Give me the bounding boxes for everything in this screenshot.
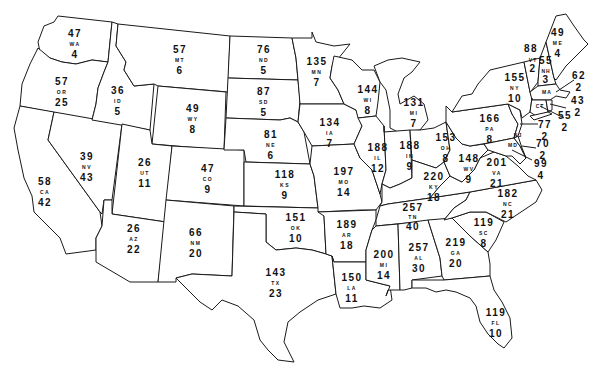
label-il: 188IL12 [367, 143, 388, 174]
label-fl: 119FL10 [486, 308, 507, 339]
label-nh-bottom: 3 [542, 75, 549, 85]
label-ky: 220KY18 [423, 172, 444, 203]
label-wi: 144WI8 [357, 85, 378, 116]
label-ga: 219GA20 [445, 238, 466, 269]
label-ca: 58CA42 [38, 177, 52, 208]
label-sd: 87SD5 [257, 87, 271, 118]
callout-md: 994 [534, 159, 548, 181]
label-ms: 200MI14 [373, 250, 394, 281]
label-ok: 151OK10 [285, 213, 306, 244]
label-va: 201VA21 [486, 158, 507, 189]
label-ne: 81NE6 [264, 130, 278, 161]
label-ia: 134IA7 [319, 118, 340, 149]
label-nc: 182NC21 [497, 189, 518, 220]
callout-ri: 432 [571, 96, 585, 118]
label-sc: 119SC8 [474, 218, 495, 249]
label-me: 49ME4 [551, 28, 565, 59]
label-vt-top: 88 [524, 44, 538, 54]
label-tx: 143TX23 [265, 268, 286, 299]
label-wv: 148WV9 [458, 154, 479, 185]
label-wa: 47WA4 [68, 29, 82, 60]
label-nv: 39NV43 [80, 152, 94, 183]
label-az: 26AZ22 [127, 224, 141, 255]
label-ut: 26UT11 [138, 158, 152, 189]
label-or: 57OR25 [55, 77, 69, 108]
label-co: 47CO9 [201, 164, 215, 195]
label-mn: 135MN7 [306, 57, 327, 88]
label-ma-abbr: MA [542, 89, 552, 95]
label-nm: 66NM20 [189, 228, 203, 259]
label-nh-top: 55 [539, 56, 553, 66]
label-pa: 166PA8 [479, 114, 500, 145]
label-ks: 118KS9 [275, 170, 296, 201]
label-ar: 189AR18 [336, 220, 357, 251]
label-md-abbr: MD [508, 142, 518, 148]
label-oh: 153OH8 [435, 133, 456, 164]
label-wy: 49WY8 [186, 104, 200, 135]
label-nj-abbr: NJ [514, 132, 522, 138]
label-nd: 76ND5 [257, 45, 271, 76]
callout-ma: 622 [572, 71, 586, 93]
label-al: 257AL30 [408, 243, 429, 274]
label-vt-bottom: 2 [529, 64, 536, 74]
label-in: 188IN9 [399, 141, 420, 172]
label-tn: 257TN40 [402, 203, 423, 232]
label-la: 150LA11 [341, 273, 362, 304]
label-mo: 197MO14 [333, 167, 354, 198]
label-ny: 155NY10 [504, 73, 525, 104]
label-id: 36ID5 [111, 86, 125, 117]
label-mt: 57MT6 [173, 45, 187, 76]
callout-ct: 552 [558, 111, 572, 133]
leader-de [522, 146, 536, 148]
label-ct-abbr: CT [536, 103, 545, 109]
label-mi: 131MI7 [403, 98, 424, 129]
